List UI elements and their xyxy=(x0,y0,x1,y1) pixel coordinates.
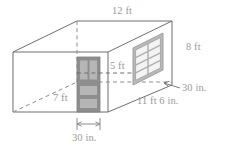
door-panel-upper-left xyxy=(80,61,88,80)
label-door-width: 30 in. xyxy=(72,133,97,144)
top-left-receding-edge xyxy=(13,21,77,52)
door-panel-lower-lower xyxy=(80,99,97,108)
label-top-width: 12 ft xyxy=(112,6,132,17)
door-panel-upper-right xyxy=(90,61,98,80)
room-dimension-diagram: 12 ft 8 ft 5 ft 7 ft 30 in. 11 ft 6 in. … xyxy=(0,0,226,149)
label-right-wall-length: 11 ft 6 in. xyxy=(137,96,179,107)
door-width-dimension-line xyxy=(77,118,100,130)
room-drawing xyxy=(0,0,226,149)
label-window-sill-callout: 30 in. xyxy=(182,83,207,94)
label-depth: 7 ft xyxy=(53,93,68,104)
label-right-height: 8 ft xyxy=(186,42,201,53)
window xyxy=(133,33,163,85)
door xyxy=(77,57,100,112)
label-window-height: 5 ft xyxy=(110,61,125,72)
door-panel-lower-upper xyxy=(80,86,97,95)
